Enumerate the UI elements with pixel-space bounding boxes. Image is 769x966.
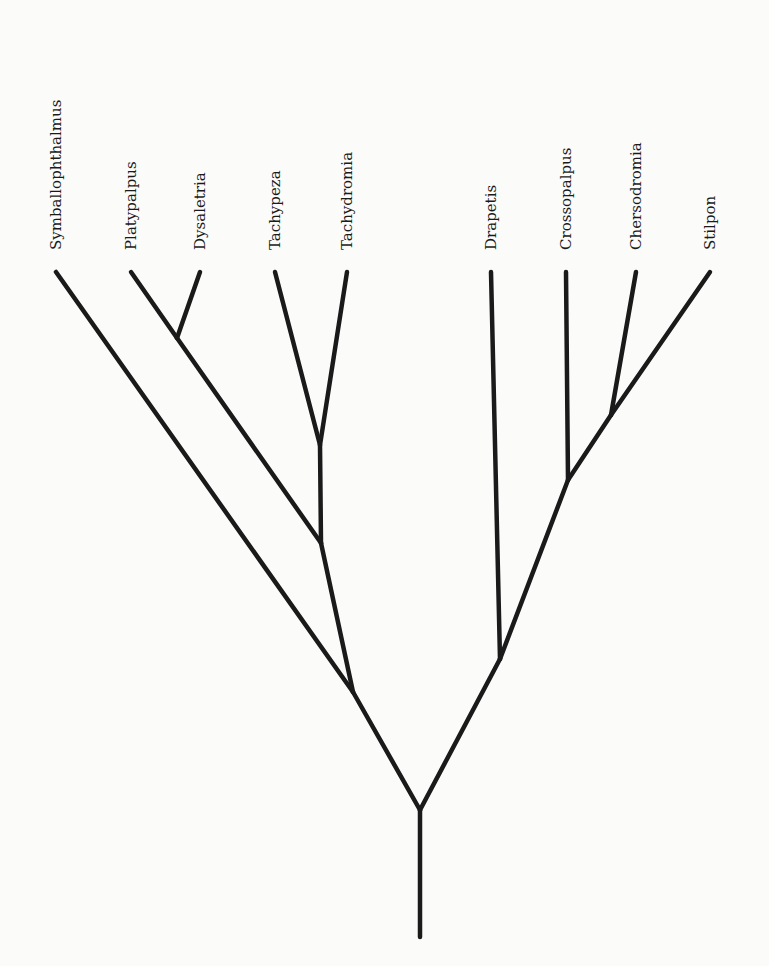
branch-inner-right	[500, 480, 568, 659]
taxon-label: Drapetis	[482, 185, 500, 250]
branch-crossopalpus	[566, 272, 568, 480]
branch-left-clade	[353, 692, 420, 810]
taxon-label: Dysaletria	[191, 172, 209, 250]
taxon-labels: SymballophthalmusPlatypalpusDysaletriaTa…	[47, 100, 719, 250]
taxon-label: Tachypeza	[266, 170, 284, 250]
taxon-label: Symballophthalmus	[47, 100, 65, 250]
cladogram: SymballophthalmusPlatypalpusDysaletriaTa…	[0, 0, 769, 966]
branch-tachy-stem	[320, 445, 321, 543]
branch-drapetis	[491, 272, 500, 659]
branch-tachypeza	[275, 272, 320, 445]
branches	[56, 272, 710, 937]
taxon-label: Platypalpus	[122, 161, 140, 250]
taxon-label: Tachydromia	[338, 152, 356, 250]
taxon-label: Chersodromia	[627, 142, 645, 250]
branch-chers-stil	[568, 415, 611, 480]
branch-tachydromia	[320, 272, 347, 445]
branch-dysaletria	[177, 272, 200, 338]
taxon-label: Stilpon	[701, 195, 719, 250]
taxon-label: Crossopalpus	[557, 148, 575, 250]
branch-right-clade	[420, 659, 500, 810]
branch-platypalpus	[131, 272, 177, 338]
branch-symballophthalmus	[56, 272, 353, 692]
branch-stilpon	[611, 272, 710, 415]
